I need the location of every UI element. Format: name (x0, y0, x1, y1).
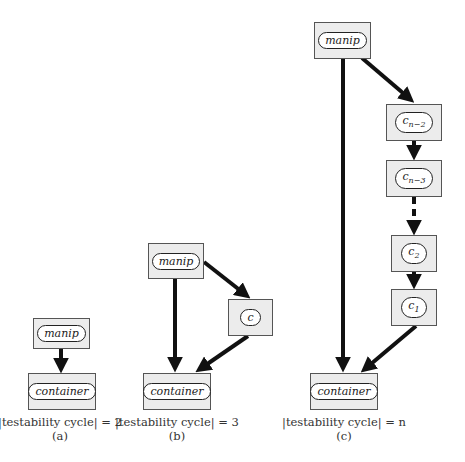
node-label: c2 (401, 243, 426, 264)
caption-b: |testability cycle| = 3 (b) (112, 415, 242, 443)
edge-b-manip-c (204, 262, 246, 295)
node-c-cn3: cn−3 (386, 160, 442, 197)
node-label: container (28, 383, 95, 400)
node-label: cn−2 (395, 112, 432, 133)
node-a-container: container (28, 373, 96, 410)
node-label-sub: 2 (415, 251, 420, 260)
node-label: manip (318, 32, 367, 49)
node-c-c1: c1 (391, 289, 437, 326)
node-c-manip: manip (314, 22, 371, 59)
node-label: cn−3 (395, 168, 432, 189)
node-label: manip (37, 325, 86, 342)
edge-c-manip-cn2 (362, 58, 410, 99)
node-label-sub: n−2 (409, 120, 426, 129)
caption-label: (c) (279, 429, 409, 443)
node-a-manip: manip (33, 318, 90, 349)
caption-label: (b) (112, 429, 242, 443)
edge-c-c1-container (365, 326, 416, 369)
node-label: manip (152, 253, 201, 270)
node-label-sub: n−3 (409, 176, 426, 185)
caption-text: |testability cycle| = n (279, 415, 409, 429)
edge-b-c-container (200, 336, 248, 369)
node-label: c (240, 309, 260, 326)
caption-label: (a) (0, 429, 125, 443)
node-c-cn2: cn−2 (386, 104, 442, 141)
node-c-c2: c2 (391, 235, 437, 272)
caption-text: |testability cycle| = 3 (112, 415, 242, 429)
caption-c: |testability cycle| = n (c) (279, 415, 409, 443)
node-c-container: container (310, 373, 378, 410)
node-b-manip: manip (148, 243, 204, 279)
caption-text: |testability cycle| = 2 (0, 415, 125, 429)
node-label-sub: 1 (415, 305, 420, 314)
caption-a: |testability cycle| = 2 (a) (0, 415, 125, 443)
node-b-container: container (143, 373, 211, 410)
node-label: container (310, 383, 377, 400)
node-b-c: c (228, 299, 273, 336)
node-label: c1 (401, 297, 426, 318)
node-label: container (143, 383, 210, 400)
